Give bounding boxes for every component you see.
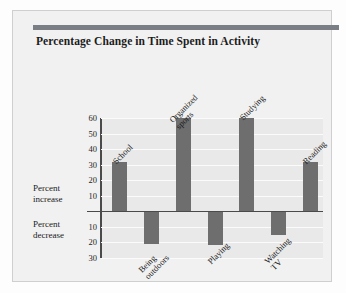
- y-axis-tick-labels: 302010102030405060: [71, 118, 97, 258]
- y-axis-tick-20-pos: 20: [89, 176, 98, 184]
- page-title: Percentage Change in Time Spent in Activ…: [36, 35, 260, 47]
- y-axis-tick-40-pos: 40: [89, 145, 98, 153]
- y-axis-tick-60-pos: 60: [89, 114, 98, 122]
- bar-organized-sports: [176, 118, 191, 211]
- y-axis-tick-50-pos: 50: [89, 130, 98, 138]
- bar-playing: [208, 211, 223, 245]
- y-axis-tick-30-neg: 30: [89, 254, 98, 262]
- percent-increase-line2: increase: [33, 194, 62, 205]
- gridline: [101, 134, 323, 135]
- y-axis-tick-10-pos: 10: [89, 192, 98, 200]
- gridline: [101, 180, 323, 181]
- chart-card: Percentage Change in Time Spent in Activ…: [12, 10, 332, 282]
- percent-decrease-label: Percent decrease: [33, 219, 64, 240]
- y-axis-tick-30-pos: 30: [89, 161, 98, 169]
- gridline: [101, 118, 323, 119]
- bar-studying: [239, 118, 254, 211]
- y-axis-line: [100, 118, 102, 258]
- gridline: [101, 196, 323, 197]
- percent-decrease-line1: Percent: [33, 219, 64, 230]
- y-axis-tick-20-neg: 20: [89, 238, 98, 246]
- gridline: [101, 165, 323, 166]
- percent-increase-label: Percent increase: [33, 183, 62, 204]
- zero-baseline: [87, 211, 323, 212]
- percent-increase-line1: Percent: [33, 183, 62, 194]
- screenshot-frame: Percentage Change in Time Spent in Activ…: [0, 0, 346, 293]
- plot-area: [101, 118, 323, 258]
- percent-decrease-line2: decrease: [33, 230, 64, 241]
- bar-reading: [303, 162, 318, 212]
- bar-being-outdoors: [144, 211, 159, 244]
- bar-watching-tv: [271, 211, 286, 234]
- accent-bar: [33, 25, 339, 30]
- bar-school: [112, 162, 127, 212]
- y-axis-tick-10-neg: 10: [89, 223, 98, 231]
